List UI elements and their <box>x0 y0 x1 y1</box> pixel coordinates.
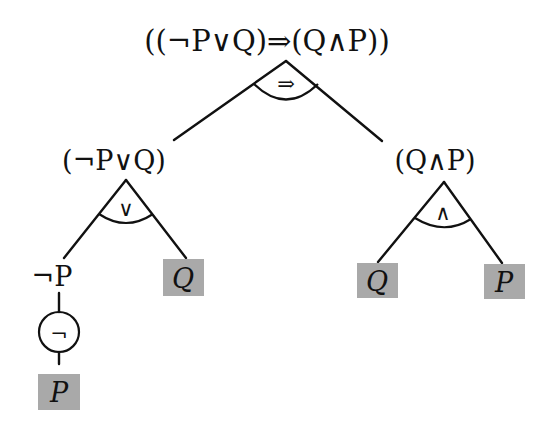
implies-symbol: ⇒ <box>277 72 295 96</box>
leaf-label: P <box>494 267 514 298</box>
leaf-label: Q <box>172 263 194 294</box>
edge-and-right <box>444 182 502 263</box>
edge-and-left <box>378 182 444 262</box>
leaf-p-right: P <box>484 264 525 299</box>
and-connective: ∧ <box>378 182 502 263</box>
right-subformula-label: (Q∧P) <box>394 145 475 176</box>
root-formula-label: ((¬P∨Q)⇒(Q∧P)) <box>144 24 390 58</box>
edge-root-left <box>174 61 286 140</box>
parse-tree-diagram: ((¬P∨Q)⇒(Q∧P)) ⇒ (¬P∨Q) ∨ ¬P ¬ P Q (Q∧P)… <box>0 0 555 437</box>
leaf-p-negated: P <box>38 374 80 410</box>
left-subformula-label: (¬P∨Q) <box>62 145 166 176</box>
leaf-q-left: Q <box>163 259 204 296</box>
negation-symbol: ¬ <box>50 322 68 346</box>
root-connective: ⇒ <box>174 61 382 141</box>
leaf-label: Q <box>366 266 388 297</box>
edge-root-right <box>286 61 382 141</box>
edge-or-left <box>64 180 126 258</box>
or-connective: ∨ <box>64 180 186 258</box>
negation-connective: ¬ <box>39 293 79 364</box>
edge-or-right <box>126 180 186 258</box>
leaf-label: P <box>49 377 69 408</box>
and-symbol: ∧ <box>435 201 450 225</box>
leaf-q-right: Q <box>357 263 398 298</box>
or-symbol: ∨ <box>118 197 133 221</box>
negation-subformula-label: ¬P <box>32 261 73 292</box>
